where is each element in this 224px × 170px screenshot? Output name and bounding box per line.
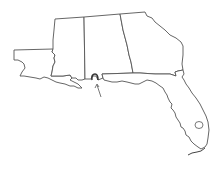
state-mississippi xyxy=(51,17,85,80)
lake-okeechobee xyxy=(195,122,203,129)
florida-keys xyxy=(188,148,205,155)
southeast-us-map xyxy=(0,0,224,170)
state-florida xyxy=(102,70,209,149)
map-container xyxy=(0,0,224,170)
